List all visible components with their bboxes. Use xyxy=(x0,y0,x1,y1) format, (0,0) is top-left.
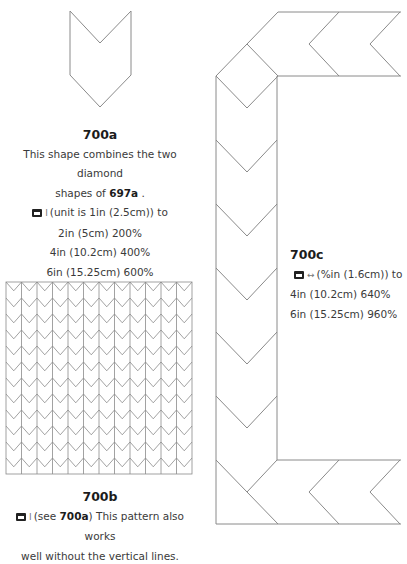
size-row: 4in (10.2cm) 400% xyxy=(0,243,200,263)
title-700b: 700b xyxy=(0,487,200,507)
size-row: 6in (15.25cm) 960% xyxy=(290,305,407,325)
ref-697a: 697a xyxy=(109,187,138,199)
width-symbol-icon: ↔ xyxy=(307,270,315,280)
size-row: 2in (5cm) 200% xyxy=(0,224,200,244)
caption-700b-line2: well without the vertical lines. xyxy=(0,547,200,564)
caption-700a-line2: shapes of 697a . xyxy=(0,184,200,204)
caption-700c: 700c ↔(%in (1.6cm)) to 4in (10.2cm) 640%… xyxy=(290,245,407,324)
caption-700b-line1: I(see 700a) This pattern also works xyxy=(0,507,200,547)
size-row: 6in (15.25cm) 600% xyxy=(0,263,200,283)
caption-700a-line1: This shape combines the two diamond xyxy=(0,145,200,184)
height-symbol-icon: I xyxy=(45,208,48,218)
shape-700b-grid xyxy=(6,282,192,474)
caption-700a: 700a This shape combines the two diamond… xyxy=(0,125,200,282)
caption-700c-line1: ↔(%in (1.6cm)) to xyxy=(290,265,407,286)
caption-700a-line3: I(unit is 1in (2.5cm)) to xyxy=(0,203,200,224)
title-700c: 700c xyxy=(290,245,407,265)
shape-700a-chevron xyxy=(70,11,131,107)
printer-icon xyxy=(16,513,26,521)
height-symbol-icon: I xyxy=(29,512,32,522)
printer-icon xyxy=(294,271,304,279)
ref-700a: 700a xyxy=(60,510,89,522)
caption-700b: 700b I(see 700a) This pattern also works… xyxy=(0,487,200,564)
size-row: 4in (10.2cm) 640% xyxy=(290,285,407,305)
title-700a: 700a xyxy=(0,125,200,145)
printer-icon xyxy=(32,209,42,217)
